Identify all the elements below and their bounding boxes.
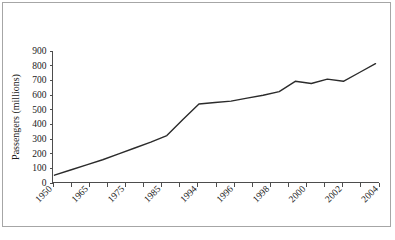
y-tick-label: 300 (32, 134, 47, 144)
x-tick-label: 1975 (106, 184, 127, 205)
x-tick-label: 1994 (178, 184, 199, 205)
x-tick-label: 2004 (359, 184, 380, 205)
y-tick-label: 900 (32, 46, 47, 56)
x-tick-label: 1985 (142, 184, 163, 205)
y-tick-label: 800 (32, 61, 47, 71)
y-tick-label: 200 (32, 149, 47, 159)
y-tick-label: 500 (32, 105, 47, 115)
x-tick-label: 2002 (323, 184, 344, 205)
data-series-group (55, 64, 376, 175)
x-tick-label: 1998 (251, 184, 272, 205)
y-tick-label: 700 (32, 75, 47, 85)
x-tick-label: 1965 (70, 184, 91, 205)
y-axis-label: Passengers (millions) (10, 74, 22, 160)
x-tick-label: 1996 (215, 184, 236, 205)
axis-lines (53, 51, 379, 183)
y-axis-label-text: Passengers (millions) (10, 74, 22, 160)
x-tick-label: 2000 (287, 184, 308, 205)
y-tick-label: 100 (32, 163, 47, 173)
y-tick-label: 600 (32, 90, 47, 100)
x-axis-ticks (54, 183, 380, 187)
line-chart: Passengers (millions) 010020030040050060… (0, 0, 395, 240)
y-axis-ticks: 0100200300400500600700800900 (32, 46, 52, 188)
y-tick-label: 400 (32, 119, 47, 129)
x-axis-tick-labels: 1950196519751985199419961998200020022004 (33, 184, 380, 205)
chart-figure: Passengers (millions) 010020030040050060… (0, 0, 395, 240)
data-series-line (55, 64, 376, 175)
x-tick-label: 1950 (33, 184, 54, 205)
